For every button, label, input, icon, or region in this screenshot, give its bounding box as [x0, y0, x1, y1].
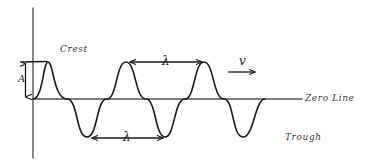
wavelength-bottom-label: λ — [123, 130, 131, 144]
zero-line-label: Zero Line — [305, 93, 355, 103]
amplitude-label: A — [18, 73, 25, 84]
velocity-label: v — [239, 54, 246, 68]
trough-label: Trough — [285, 132, 322, 142]
wave-diagram: Crest Zero Line Trough A λ λ v — [0, 0, 375, 165]
amplitude-tick — [22, 62, 47, 63]
crest-label: Crest — [60, 44, 88, 54]
wavelength-top-label: λ — [162, 54, 170, 68]
